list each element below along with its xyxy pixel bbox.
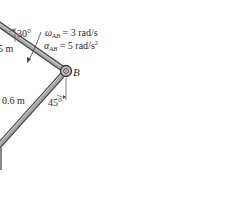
support-c-fragment [0,148,2,170]
link-bc-length-label: 0.6 m [2,95,25,106]
omega-ab-label: ωAB = 3 rad/s [45,27,98,39]
pin-b [61,66,72,77]
alpha-ab-label: αAB = 5 rad/s2 [44,39,98,52]
pin-b-label: B [73,66,80,78]
link-bc [0,70,66,150]
link-ab-length-label: 5 m [0,43,14,54]
angle-45-label: 45° [48,97,62,108]
linkage-diagram: B 30° 5 m ωAB = 3 rad/s αAB = 5 rad/s2 4… [0,0,250,207]
angle-30-label: 30° [17,28,31,39]
